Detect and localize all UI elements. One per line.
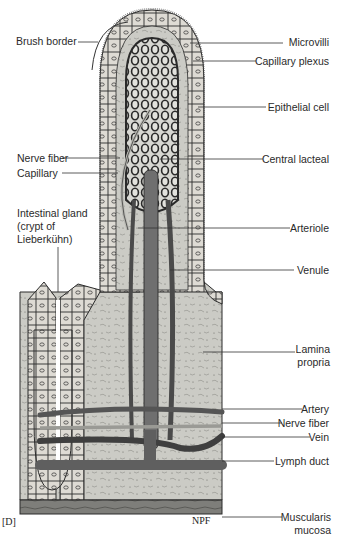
label-capillary: Capillary	[17, 167, 59, 179]
label-intestinal-gland-2: (crypt of	[17, 220, 55, 232]
label-microvilli: Microvilli	[289, 36, 329, 48]
nerve-fiber-vessel	[40, 426, 222, 428]
label-vein: Vein	[309, 431, 330, 443]
label-artery: Artery	[301, 403, 330, 415]
label-muscularis-mucosa: Muscularis	[281, 511, 331, 523]
label-central-lacteal: Central lacteal	[262, 153, 329, 165]
label-intestinal-gland: Intestinal gland	[17, 207, 88, 219]
label-intestinal-gland-3: Lieberkühn)	[17, 233, 72, 245]
label-nerve-fiber-upper: Nerve fiber	[17, 152, 69, 164]
label-epithelial-cell: Epithelial cell	[268, 101, 329, 113]
label-lamina-propria-2: propria	[297, 356, 330, 368]
label-arteriole: Arteriole	[290, 222, 329, 234]
label-venule: Venule	[297, 264, 329, 276]
label-lamina-propria: Lamina	[296, 343, 331, 355]
panel-label: [D]	[2, 516, 16, 527]
label-capillary-plexus: Capillary plexus	[255, 55, 329, 67]
label-brush-border: Brush border	[16, 35, 77, 47]
muscularis-mucosa-layer	[20, 500, 222, 514]
label-lymph-duct: Lymph duct	[275, 455, 329, 467]
artist-signature: NPF	[192, 515, 211, 526]
label-muscularis-mucosa-2: mucosa	[294, 524, 331, 536]
label-nerve-fiber-lower: Nerve fiber	[278, 417, 330, 429]
villus-diagram: NPF Brush border Nerve fiber Capillary I…	[0, 0, 352, 539]
